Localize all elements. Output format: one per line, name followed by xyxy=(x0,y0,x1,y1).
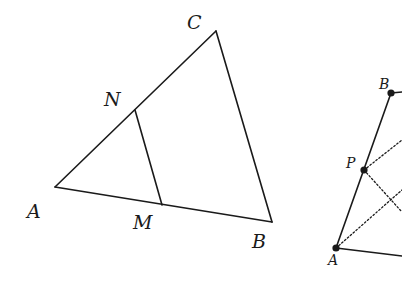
right-figure xyxy=(336,92,402,256)
point-a-right xyxy=(332,244,339,251)
segment-nm xyxy=(135,110,162,205)
label-n: N xyxy=(103,88,122,110)
side-bc xyxy=(216,31,272,222)
point-p xyxy=(360,166,367,173)
geometry-diagram: A B C N M A P B xyxy=(0,0,402,291)
segment-a-base xyxy=(336,248,402,256)
label-b-right: B xyxy=(378,76,389,92)
right-figure-labels: A P B xyxy=(326,76,389,268)
label-a-right: A xyxy=(326,252,338,268)
label-p: P xyxy=(345,155,356,171)
left-figure xyxy=(55,31,272,222)
label-c-left: C xyxy=(187,11,202,33)
side-ab xyxy=(55,187,272,222)
right-figure-points xyxy=(332,89,394,251)
label-b-left: B xyxy=(251,230,266,252)
dotted-p-down xyxy=(364,170,402,212)
label-m: M xyxy=(132,211,153,233)
side-ca xyxy=(55,31,216,187)
label-a-left: A xyxy=(25,200,41,222)
